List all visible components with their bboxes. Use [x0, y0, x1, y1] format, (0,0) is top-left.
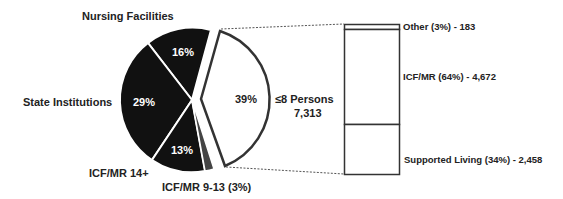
value-39: 39% [235, 93, 257, 105]
label-nursing-facilities: Nursing Facilities [82, 10, 174, 22]
label-icf-mr: ICF/MR (64%) - 4,672 [403, 71, 496, 82]
label-icf-mr-14: ICF/MR 14+ [89, 167, 149, 179]
connector-bottom [226, 167, 344, 174]
stacked-bar [345, 25, 400, 175]
value-29: 29% [133, 96, 155, 108]
label-icf-mr-9-13: ICF/MR 9-13 (3%) [162, 181, 252, 193]
pie-bar-chart: Nursing Facilities State Institutions IC… [0, 0, 563, 199]
value-13: 13% [171, 144, 193, 156]
connector-top [221, 24, 344, 29]
label-supported-living: Supported Living (34%) - 2,458 [404, 154, 542, 165]
value-16: 16% [172, 46, 194, 58]
label-state-institutions: State Institutions [23, 96, 112, 108]
label-other: Other (3%) - 183 [403, 21, 475, 32]
label-8-persons: ≤8 Persons [275, 93, 334, 105]
bar-segment-icf-mr [345, 30, 400, 125]
bar-segment-supported-living [345, 125, 400, 175]
label-8-persons-count: 7,313 [294, 107, 322, 119]
